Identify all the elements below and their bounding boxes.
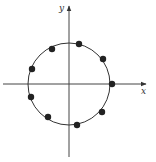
coordinate-diagram: y x: [0, 0, 156, 162]
point-marker: [109, 81, 115, 87]
point-marker: [45, 114, 51, 120]
point-marker: [100, 56, 106, 62]
y-axis-label: y: [58, 3, 65, 13]
point-marker: [76, 41, 82, 47]
point-marker: [99, 109, 105, 115]
point-marker: [49, 46, 55, 52]
point-marker: [29, 66, 35, 72]
point-marker: [74, 122, 80, 128]
x-axis-label: x: [141, 86, 146, 96]
point-marker: [28, 94, 34, 100]
